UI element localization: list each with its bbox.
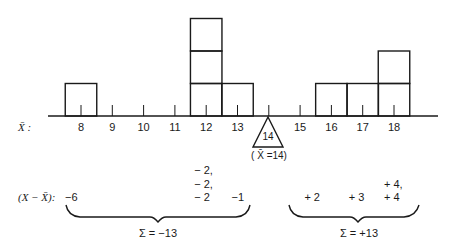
left-brace <box>66 205 250 222</box>
diagram-canvas <box>0 0 455 251</box>
axis-tick-label: 9 <box>109 121 115 133</box>
axis-tick-label: 13 <box>231 121 243 133</box>
deviation-label: (X − X̄): <box>18 191 55 203</box>
right-brace <box>289 205 419 222</box>
deviation-value: + 3 <box>349 191 365 203</box>
axis-label: X̄ : <box>18 121 31 133</box>
deviation-value: − 2, <box>194 178 213 190</box>
deviation-value: + 4 <box>384 191 400 203</box>
deviation-value: −6 <box>65 191 78 203</box>
deviation-value: + 4, <box>384 178 403 190</box>
axis-tick-label: 17 <box>357 121 369 133</box>
axis-tick-label: 11 <box>169 121 180 133</box>
frequency-boxes <box>65 19 410 117</box>
left-sum: Σ = −13 <box>139 227 177 239</box>
axis-tick-label: 10 <box>137 121 149 133</box>
deviation-value: −1 <box>232 191 245 203</box>
axis-tick-label: 8 <box>78 121 84 133</box>
axis-tick-label: 16 <box>325 121 337 133</box>
balance-diagram: X̄ : 891011121315161718 14 ( X̄ =14) (X … <box>0 0 455 251</box>
axis-tick-label: 12 <box>200 121 212 133</box>
mean-caption: ( X̄ =14) <box>251 150 287 162</box>
frequency-box <box>190 51 222 84</box>
mean-value-label: 14 <box>262 131 273 143</box>
deviation-value: − 2, <box>194 164 213 176</box>
deviation-value: + 2 <box>304 191 320 203</box>
axis-tick-label: 18 <box>388 121 400 133</box>
axis-tick-label: 15 <box>294 121 306 133</box>
frequency-box <box>190 19 222 52</box>
deviation-value: − 2 <box>194 191 210 203</box>
right-sum: Σ = +13 <box>340 227 378 239</box>
frequency-box <box>378 51 410 84</box>
